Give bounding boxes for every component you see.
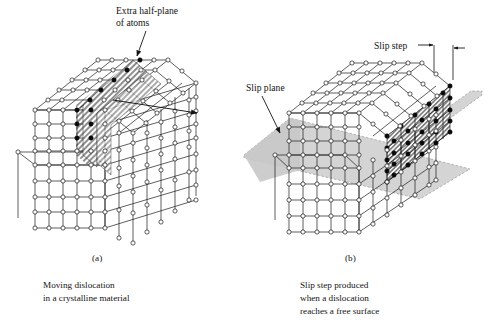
caption-b-line3: reaches a free surface	[300, 306, 379, 316]
extra-half-plane-label-line1: Extra half-plane	[116, 5, 178, 16]
dislocation-figure-svg: Extra half-plane of atoms (a) Moving dis…	[0, 0, 488, 324]
panel-label-b: (b)	[345, 253, 356, 263]
caption-a-line1: Moving dislocation	[43, 280, 115, 290]
caption-b-line2: when a dislocation	[300, 293, 369, 303]
figure-root: Extra half-plane of atoms (a) Moving dis…	[0, 0, 488, 324]
caption-a-line2: in a crystalline material	[43, 293, 130, 303]
panel-label-a: (a)	[92, 253, 102, 263]
slip-plane-label: Slip plane	[246, 82, 285, 93]
slip-step-label: Slip step	[374, 40, 408, 51]
caption-b-line1: Slip step produced	[300, 280, 369, 290]
extra-half-plane-label-line2: of atoms	[116, 17, 150, 28]
